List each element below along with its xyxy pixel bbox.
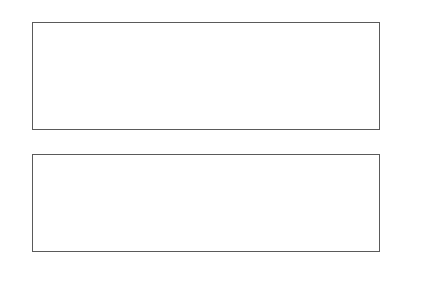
bars-layer-regional: [33, 155, 379, 251]
y-axis-bottom: [0, 154, 32, 252]
y-axis-top: [0, 22, 32, 130]
chart-regional: [0, 140, 434, 301]
plot-wrap-bottom: [0, 154, 380, 252]
bars-layer-metropolitan: [33, 23, 379, 129]
chart-page: [0, 0, 434, 301]
plot-area-metropolitan: [32, 22, 380, 130]
plot-wrap-top: [0, 22, 380, 130]
plot-area-regional: [32, 154, 380, 252]
chart-metropolitan: [0, 0, 434, 145]
